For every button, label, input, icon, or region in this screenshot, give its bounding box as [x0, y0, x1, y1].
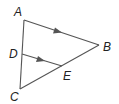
parallel-arrow-icon-de: [36, 56, 45, 62]
segment-cb: [20, 45, 99, 89]
parallel-arrow-icon-ab: [53, 28, 62, 34]
label-e: E: [63, 69, 72, 83]
label-b: B: [103, 40, 111, 54]
triangle-diagram: A B C D E: [0, 0, 119, 104]
label-d: D: [9, 47, 18, 61]
label-a: A: [13, 5, 22, 19]
label-c: C: [10, 90, 19, 104]
